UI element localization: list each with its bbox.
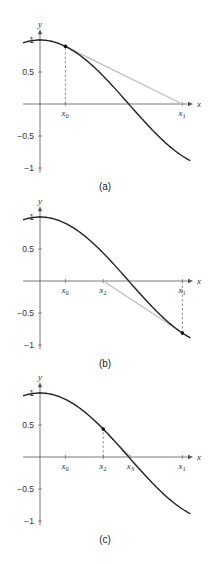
y-tick-label: −1 — [24, 163, 34, 173]
x-axis-label: x — [196, 99, 201, 109]
x-marker-label-3: x3 — [126, 461, 134, 472]
y-tick-label: −1 — [24, 340, 34, 350]
x-marker-label-0: x0 — [60, 108, 68, 119]
y-axis-label: y — [37, 196, 42, 206]
y-tick-label: −0.5 — [17, 131, 34, 141]
y-tick-label: −0.5 — [17, 308, 34, 318]
panel-a: xy10.5−0.5−1x0x1(a) — [17, 19, 201, 192]
x-marker-label-1: x1 — [177, 108, 185, 119]
panel-caption: (c) — [99, 534, 111, 545]
y-tick-label: −0.5 — [17, 484, 34, 494]
iteration-point — [64, 45, 68, 49]
x-marker-label-1: x1 — [177, 285, 185, 296]
newton-method-figure: xy10.5−0.5−1x0x1(a)xy10.5−0.5−1x0x2x1(b)… — [0, 0, 209, 564]
y-axis-label: y — [37, 372, 42, 382]
x-axis-arrow-icon — [188, 455, 193, 459]
y-axis-label: y — [37, 19, 42, 29]
cosine-curve — [23, 393, 190, 514]
iteration-point — [181, 331, 185, 335]
panel-c: xy10.5−0.5−1x0x2x3x1(c) — [17, 372, 201, 545]
panel-caption: (b) — [99, 358, 111, 369]
panel-b: xy10.5−0.5−1x0x2x1(b) — [17, 196, 201, 369]
x-axis-label: x — [196, 452, 201, 462]
x-axis-arrow-icon — [188, 102, 193, 106]
y-tick-label: 0.5 — [22, 244, 34, 254]
y-axis-arrow-icon — [38, 206, 42, 211]
panel-caption: (a) — [99, 181, 111, 192]
cosine-curve — [23, 40, 190, 161]
x-marker-label-0: x0 — [60, 461, 68, 472]
y-tick-label: 0.5 — [22, 420, 34, 430]
y-axis-arrow-icon — [38, 382, 42, 387]
x-axis-label: x — [196, 276, 201, 286]
y-axis-arrow-icon — [38, 29, 42, 34]
tangent-line — [65, 46, 182, 104]
y-tick-label: −1 — [24, 516, 34, 526]
x-marker-label-0: x0 — [60, 285, 68, 296]
cosine-curve — [23, 217, 190, 338]
x-marker-label-1: x1 — [177, 461, 185, 472]
x-marker-label-2: x2 — [98, 461, 106, 472]
y-tick-label: 0.5 — [22, 67, 34, 77]
x-marker-label-2: x2 — [98, 285, 106, 296]
x-axis-arrow-icon — [188, 279, 193, 283]
iteration-point — [101, 427, 105, 431]
